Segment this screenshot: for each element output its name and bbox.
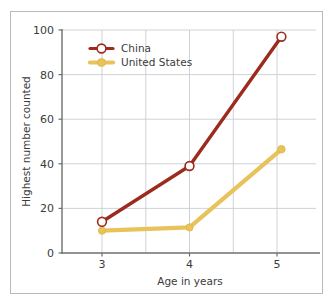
x-tick-label-4: 4 — [186, 258, 193, 271]
data-point-china-age4 — [185, 162, 194, 171]
legend-label-united-states: United States — [121, 56, 192, 68]
legend-entry-china[interactable]: China — [90, 42, 151, 54]
series-markers-united-states — [98, 146, 285, 235]
y-tick-label-40: 40 — [40, 158, 54, 171]
y-tick-label-60: 60 — [40, 113, 54, 126]
legend-label-china: China — [121, 42, 151, 54]
legend-marker-united-states-icon — [98, 59, 106, 67]
data-point-us-age5 — [278, 146, 286, 154]
legend-entry-united-states[interactable]: United States — [90, 56, 192, 68]
y-tick-label-80: 80 — [40, 69, 54, 82]
chart-legend: China United States — [90, 42, 192, 68]
y-tick-label-0: 0 — [47, 247, 54, 260]
data-point-china-age5 — [277, 32, 286, 41]
x-tick-label-5: 5 — [274, 258, 281, 271]
y-tick-label-20: 20 — [40, 202, 54, 215]
chart-figure: 100 80 60 40 20 0 3 4 5 Age in years Hig… — [0, 0, 335, 306]
x-axis-title: Age in years — [157, 275, 222, 287]
x-tick-label-3: 3 — [99, 258, 106, 271]
y-tick-label-100: 100 — [33, 24, 54, 37]
legend-marker-china-icon — [97, 44, 106, 53]
data-point-china-age3 — [98, 217, 107, 226]
line-chart: 100 80 60 40 20 0 3 4 5 Age in years Hig… — [0, 0, 335, 306]
data-point-us-age4 — [186, 224, 193, 231]
y-axis-title: Highest number counted — [20, 76, 32, 207]
data-point-us-age3 — [98, 227, 105, 234]
